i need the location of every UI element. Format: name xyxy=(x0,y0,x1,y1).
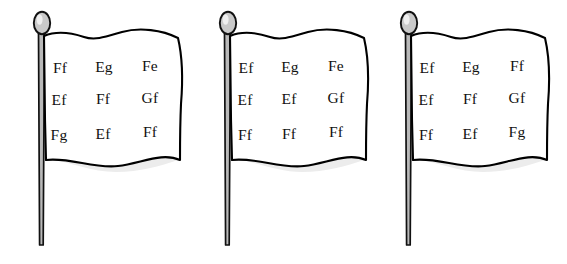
cell-r1c0: Ef xyxy=(237,91,253,108)
cell-r0c0: Ef xyxy=(238,59,254,76)
flag-1-cloth-group: Ff Eg Fe Ef Ff Gf Fg Ef Ff xyxy=(44,30,182,172)
cell-r1c1: Ef xyxy=(281,90,297,107)
cell-r1c2: Gf xyxy=(509,89,526,106)
cell-r2c2: Ff xyxy=(143,123,158,140)
cell-r1c0: Ef xyxy=(51,91,67,108)
cell-r0c2: Fe xyxy=(328,57,344,74)
cell-r2c0: Fg xyxy=(51,126,68,143)
flag-3-cloth-group: Ef Eg Ff Ef Ff Gf Ff Ef Fg xyxy=(411,30,549,172)
flagpole-finial-icon xyxy=(401,12,417,34)
flag-1: Ff Eg Fe Ef Ff Gf Fg Ef Ff xyxy=(34,12,182,245)
cell-r0c0: Ff xyxy=(53,59,68,76)
flag-3: Ef Eg Ff Ef Ff Gf Ff Ef Fg xyxy=(401,12,549,245)
cell-r2c0: Ff xyxy=(419,126,434,143)
cell-r0c2: Ff xyxy=(510,57,525,74)
cell-r2c0: Ff xyxy=(238,126,253,143)
flag-2-cloth-group: Ef Eg Fe Ef Ef Gf Ff Ff Ff xyxy=(230,30,368,172)
cell-r1c0: Ef xyxy=(418,91,434,108)
flagpole-finial-highlight xyxy=(37,14,43,24)
cell-r2c1: Ff xyxy=(282,125,297,142)
cell-r2c2: Ff xyxy=(329,123,344,140)
flagpole-finial-icon xyxy=(34,12,50,34)
cell-r1c1: Ff xyxy=(463,90,478,107)
cell-r1c2: Gf xyxy=(142,89,159,106)
cell-r0c1: Eg xyxy=(281,58,299,75)
cell-r0c1: Eg xyxy=(95,58,113,75)
flag-2: Ef Eg Fe Ef Ef Gf Ff Ff Ff xyxy=(220,12,368,245)
cell-r0c1: Eg xyxy=(462,58,480,75)
flagpole-finial-icon xyxy=(220,12,236,34)
cell-r1c1: Ff xyxy=(96,90,111,107)
flagpole-finial-highlight xyxy=(223,14,229,24)
cell-r2c1: Ef xyxy=(95,125,111,142)
flags-illustration: Ff Eg Fe Ef Ff Gf Fg Ef Ff Ef Eg xyxy=(0,0,567,264)
cell-r0c2: Fe xyxy=(142,57,158,74)
cell-r0c0: Ef xyxy=(419,59,435,76)
cell-r2c1: Ef xyxy=(462,125,478,142)
cell-r2c2: Fg xyxy=(509,123,526,140)
flagpole-finial-highlight xyxy=(404,14,410,24)
cell-r1c2: Gf xyxy=(328,89,345,106)
